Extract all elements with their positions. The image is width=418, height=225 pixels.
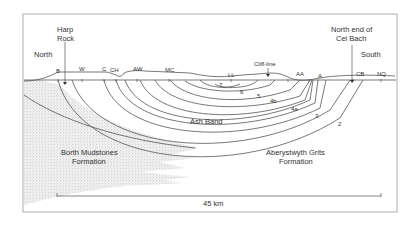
cei-bach-label-2: Cei Bach bbox=[336, 34, 366, 43]
scale-label: 45 km bbox=[203, 199, 223, 208]
north-label: North bbox=[34, 50, 52, 59]
harp-rock-label-2: Rock bbox=[57, 34, 74, 43]
harp-rock-label-1: Harp bbox=[57, 25, 73, 34]
ash-band-label: Ash Band bbox=[190, 117, 223, 126]
borth-formation-label-1: Borth Mudstones bbox=[61, 148, 118, 157]
unit-2: 2 bbox=[338, 121, 342, 127]
cliff-line-label: Cliff-line bbox=[254, 61, 276, 67]
locality-aa: AA bbox=[296, 71, 304, 77]
cross-section-diagram: North South Harp Rock North end of Cei B… bbox=[0, 0, 418, 225]
unit-6: 6 bbox=[240, 89, 244, 95]
unit-3: 3 bbox=[315, 113, 319, 119]
locality-ll: LL bbox=[228, 72, 235, 78]
aberystwyth-formation-label-2: Formation bbox=[279, 157, 313, 166]
aberystwyth-formation-label-1: Aberystwyth Grits bbox=[266, 148, 325, 157]
borth-formation-label-2: Formation bbox=[72, 157, 106, 166]
locality-nq: NQ bbox=[377, 71, 386, 77]
ground-surface bbox=[24, 71, 395, 81]
locality-mc: MC bbox=[165, 67, 175, 73]
locality-w: W bbox=[79, 66, 85, 72]
scale-bar bbox=[57, 193, 381, 197]
south-label: South bbox=[361, 50, 381, 59]
borth-mudstones-region bbox=[24, 80, 200, 205]
harp-rock-arrow-icon bbox=[63, 82, 67, 85]
locality-a: A bbox=[318, 73, 322, 79]
locality-aw: AW bbox=[133, 66, 143, 72]
locality-cb: CB bbox=[356, 71, 364, 77]
unit-5: 5 bbox=[257, 93, 261, 99]
locality-b: B bbox=[56, 68, 60, 74]
locality-ch: CH bbox=[110, 67, 119, 73]
cei-bach-label-1: North end of bbox=[331, 25, 373, 34]
unit-4b: 4b bbox=[270, 98, 277, 104]
cei-bach-arrow-icon bbox=[350, 80, 354, 83]
locality-c: C bbox=[102, 66, 107, 72]
unit-4a: 4a bbox=[291, 106, 298, 112]
cliff-line-arrow-icon bbox=[266, 74, 270, 77]
